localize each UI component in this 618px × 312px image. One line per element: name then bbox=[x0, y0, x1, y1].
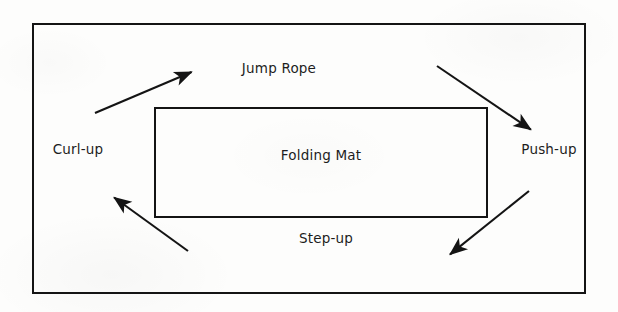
station-label-step-up: Step-up bbox=[299, 232, 353, 246]
station-label-jump-rope: Jump Rope bbox=[242, 62, 316, 76]
center-node-label-folding-mat: Folding Mat bbox=[281, 149, 361, 163]
station-label-curl-up: Curl-up bbox=[53, 143, 104, 157]
diagram-page: Jump Rope Push-up Step-up Curl-up Foldin… bbox=[0, 0, 618, 312]
station-label-push-up: Push-up bbox=[521, 143, 576, 157]
